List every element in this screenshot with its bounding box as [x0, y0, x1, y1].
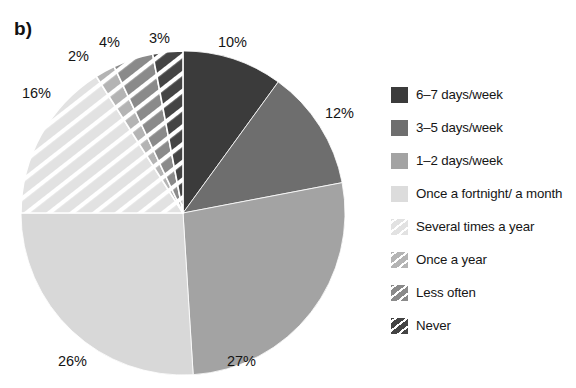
legend-swatch-icon	[391, 153, 408, 169]
legend-item[interactable]: Less often	[391, 276, 576, 309]
slice-percent-label: 12%	[325, 105, 354, 121]
legend-swatch-icon	[391, 120, 408, 136]
legend-item[interactable]: Several times a year	[391, 210, 576, 243]
legend-label: 1–2 days/week	[416, 154, 503, 167]
pie-slice	[183, 183, 345, 375]
legend: 6–7 days/week3–5 days/week1–2 days/weekO…	[391, 78, 576, 342]
legend-label: 3–5 days/week	[416, 121, 503, 134]
pie-chart-figure: b)	[0, 0, 576, 388]
pie-svg	[0, 0, 390, 388]
slice-percent-label: 27%	[227, 353, 256, 369]
pie-slices	[21, 51, 345, 375]
legend-item[interactable]: Once a year	[391, 243, 576, 276]
pie-chart-area: 10%12%27%26%16%2%4%3%	[0, 0, 390, 388]
legend-swatch-icon	[391, 285, 408, 301]
legend-swatch-icon	[391, 186, 408, 202]
slice-percent-label: 10%	[218, 34, 247, 50]
legend-swatch-icon	[391, 219, 408, 235]
legend-label: Never	[416, 319, 451, 332]
legend-item[interactable]: 3–5 days/week	[391, 111, 576, 144]
legend-label: Once a year	[416, 253, 487, 266]
legend-item[interactable]: Once a fortnight/ a month	[391, 177, 576, 210]
legend-swatch-icon	[391, 87, 408, 103]
legend-label: Once a fortnight/ a month	[416, 187, 562, 200]
legend-label: 6–7 days/week	[416, 88, 503, 101]
slice-percent-label: 16%	[22, 85, 51, 101]
legend-item[interactable]: 6–7 days/week	[391, 78, 576, 111]
pie-slice	[21, 213, 193, 375]
legend-label: Several times a year	[416, 220, 534, 233]
legend-label: Less often	[416, 286, 476, 299]
legend-item[interactable]: 1–2 days/week	[391, 144, 576, 177]
legend-swatch-icon	[391, 252, 408, 268]
slice-percent-label: 26%	[58, 353, 87, 369]
slice-percent-label: 2%	[68, 48, 89, 64]
legend-item[interactable]: Never	[391, 309, 576, 342]
slice-percent-label: 4%	[99, 34, 120, 50]
legend-swatch-icon	[391, 318, 408, 334]
slice-percent-label: 3%	[149, 30, 170, 46]
